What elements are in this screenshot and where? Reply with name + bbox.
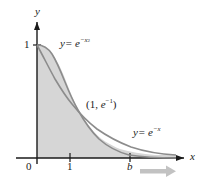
- curve-label-exponential: y= e−x: [133, 126, 161, 138]
- y-tick-label-1: 1: [24, 39, 30, 50]
- x-tick-label-1: 1: [67, 161, 73, 172]
- curve-label-exponential-exponent: −x: [153, 125, 161, 132]
- curve-label-gaussian: y= e−x2: [60, 37, 90, 49]
- x-tick-label-b: b: [127, 161, 133, 172]
- intersection-point-label: (1, e−1): [86, 98, 116, 110]
- graph-canvas: [0, 0, 212, 185]
- curve-label-gaussian-eq: = e: [65, 37, 80, 49]
- math-figure: y x 0 1 b 1 y= e−x2 y= e−x (1, e−1): [0, 0, 212, 185]
- y-axis-label: y: [35, 6, 40, 17]
- origin-label: 0: [26, 161, 32, 172]
- curve-label-exponential-eq: = e: [138, 126, 153, 138]
- x-axis-arrowhead: [176, 155, 184, 161]
- curve-label-gaussian-exponent-square: 2: [88, 38, 90, 43]
- x-axis-label: x: [190, 151, 195, 162]
- intersection-close: ): [113, 98, 117, 110]
- x-direction-arrow: [140, 166, 176, 178]
- intersection-exponent: −1: [106, 97, 113, 104]
- y-axis-arrowhead: [34, 22, 40, 30]
- intersection-open: (1,: [86, 98, 101, 110]
- curve-label-gaussian-exponent: −x: [80, 36, 88, 43]
